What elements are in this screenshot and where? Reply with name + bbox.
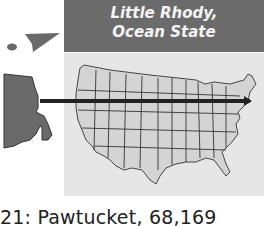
- island-shape-icon: [25, 33, 60, 52]
- illustration-layer: [0, 0, 266, 226]
- city-population-caption: 21: Pawtucket, 68,169: [0, 206, 217, 226]
- pointer-line: [40, 99, 250, 103]
- block-island-icon: [7, 44, 17, 51]
- us-map-icon: [76, 65, 256, 184]
- rhode-island-shape-icon: [4, 74, 52, 148]
